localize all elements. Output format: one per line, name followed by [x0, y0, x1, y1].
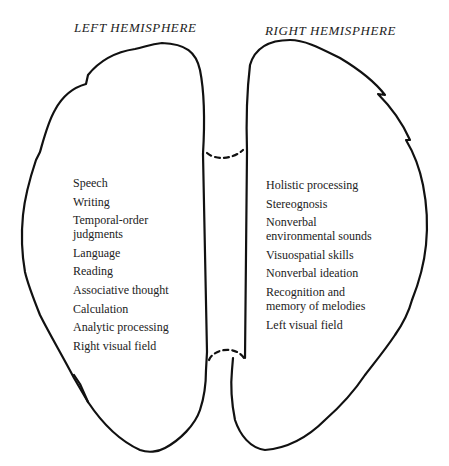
left-notch [74, 375, 88, 402]
right-function-item: Nonverbal ideation [266, 266, 372, 280]
right-function-item: Visuospatial skills [266, 248, 372, 262]
left-function-item: Speech [73, 176, 169, 190]
right-hemisphere-function-list: Holistic processing Stereognosis Nonverb… [266, 178, 372, 336]
right-function-item: Recognition andmemory of melodies [266, 285, 372, 313]
upper-callosum-dashed [207, 150, 243, 158]
left-function-item: Writing [73, 195, 169, 209]
brain-outline-diagram [0, 0, 449, 466]
left-function-item: Reading [73, 264, 169, 278]
left-function-item: Temporal-orderjudgments [73, 213, 169, 241]
right-function-item: Nonverbalenvironmental sounds [266, 215, 372, 243]
right-function-item: Stereognosis [266, 197, 372, 211]
right-function-item: Holistic processing [266, 178, 372, 192]
lower-callosum-dashed [209, 350, 245, 360]
right-function-item: Left visual field [266, 318, 372, 332]
left-function-item: Associative thought [73, 283, 169, 297]
left-function-item: Calculation [73, 302, 169, 316]
right-medial-line [245, 152, 247, 358]
left-function-item: Language [73, 246, 169, 260]
left-medial-line [203, 154, 207, 352]
left-hemisphere-function-list: Speech Writing Temporal-orderjudgments L… [73, 176, 169, 357]
left-function-item: Right visual field [73, 339, 169, 353]
left-function-item: Analytic processing [73, 320, 169, 334]
